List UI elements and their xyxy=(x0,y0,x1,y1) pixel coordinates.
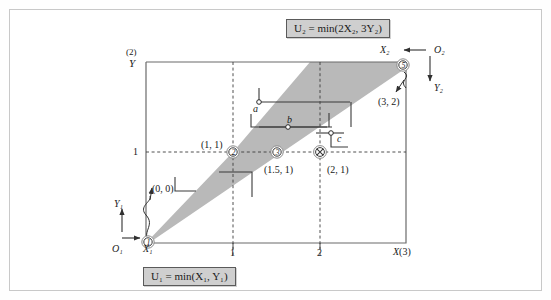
y2-axis-label: Y₂ xyxy=(434,82,443,93)
origin1-axis-arrows xyxy=(122,209,140,238)
origin1-label: O₁ xyxy=(112,243,123,254)
y-tick-1: 1 xyxy=(133,146,138,157)
node-number-1: 1 xyxy=(144,238,153,247)
y-axis-super-label: (2) xyxy=(126,47,137,57)
marker-point-b xyxy=(286,125,291,130)
x-axis-label: X1(3) xyxy=(393,246,411,257)
utility-function-2-text: U₂ = min(2X₂, 3Y₂) xyxy=(294,22,382,34)
curve-point-label-c: c xyxy=(337,133,341,144)
node-number-3: 3 xyxy=(273,148,282,157)
y-axis-label: Y xyxy=(129,57,135,69)
point-label-1-1: (1, 1) xyxy=(201,139,223,150)
x-tick-1: 1 xyxy=(230,247,235,258)
figure-page: U₂ = min(2X₂, 3Y₂) U₁ = min(X₁, Y₁) (2) … xyxy=(0,0,551,300)
ic1-lower-a xyxy=(175,177,196,191)
point-label-2-1: (2, 1) xyxy=(327,164,349,175)
x-tick-2: 2 xyxy=(317,247,322,258)
x2-axis-label: X₂ xyxy=(380,44,390,55)
node-number-2: 2 xyxy=(229,148,238,157)
y1-axis-label: Y₁ xyxy=(114,198,123,209)
origin2-label: O₂ xyxy=(434,44,445,55)
leader-node5 xyxy=(396,72,407,92)
arrow-node5-label xyxy=(396,80,404,92)
utility-function-1-text: U₁ = min(X₁, Y₁) xyxy=(151,270,228,282)
node-number-5: 5 xyxy=(399,61,408,70)
axis-ticks xyxy=(233,243,320,249)
curve-point-label-b: b xyxy=(287,114,292,125)
utility-function-2-box: U₂ = min(2X₂, 3Y₂) xyxy=(286,19,390,38)
curve-point-label-a: a xyxy=(253,103,258,114)
point-label-3-2: (3, 2) xyxy=(378,96,400,107)
point-label-0-0: (0, 0) xyxy=(152,183,174,194)
utility-function-1-box: U₁ = min(X₁, Y₁) xyxy=(143,267,236,286)
point-label-1.5-1: (1.5, 1) xyxy=(264,164,293,175)
marker-point-c xyxy=(329,131,334,136)
